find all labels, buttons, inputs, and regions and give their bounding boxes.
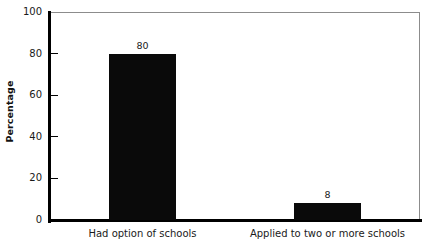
y-axis-tick-mark xyxy=(51,95,58,96)
y-axis-line xyxy=(48,11,51,223)
x-axis-line xyxy=(48,219,422,222)
y-axis-tick-label: 100 xyxy=(2,7,42,17)
bar-chart: Percentage 020406080100 808 Had option o… xyxy=(0,0,432,249)
bar xyxy=(294,203,361,220)
bar-value-label: 8 xyxy=(288,190,368,200)
y-axis-tick-mark xyxy=(51,178,58,179)
y-axis-tick-mark xyxy=(51,136,58,137)
y-axis-tick-label: 40 xyxy=(2,132,42,142)
y-axis-title: Percentage xyxy=(0,0,18,222)
y-axis-tick-label: 60 xyxy=(2,90,42,100)
y-axis-tick-label: 0 xyxy=(2,215,42,225)
y-axis-tick-label: 80 xyxy=(2,49,42,59)
bar-value-label: 80 xyxy=(103,41,183,51)
bar xyxy=(109,54,176,220)
y-axis-tick-mark xyxy=(51,53,58,54)
x-axis-category-label: Applied to two or more schools xyxy=(218,228,432,239)
y-axis-tick-label: 20 xyxy=(2,173,42,183)
